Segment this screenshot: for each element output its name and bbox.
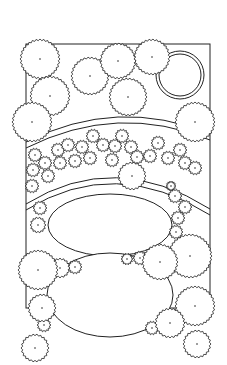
- shrub-symbol: [86, 129, 100, 143]
- tree-symbol: [183, 330, 211, 358]
- planting-plan-diagram: [0, 0, 227, 365]
- tree-symbol: [12, 102, 52, 142]
- shrub-symbol: [68, 154, 82, 168]
- tree-symbol: [21, 334, 49, 362]
- shrub-symbol: [96, 138, 110, 152]
- shrub-symbol: [173, 143, 187, 157]
- tree-symbol: [175, 102, 215, 142]
- shrub-symbol: [151, 136, 165, 150]
- shrub-symbol: [105, 153, 119, 167]
- tree-symbol: [118, 162, 146, 190]
- shrub-symbol: [26, 163, 40, 177]
- tree-symbol: [155, 308, 185, 338]
- tree-symbol: [100, 43, 136, 79]
- shrub-symbol: [30, 217, 46, 233]
- shrub-symbol: [143, 149, 157, 163]
- shrub-symbol: [53, 156, 67, 170]
- tree-symbol: [20, 39, 60, 79]
- tree-symbol: [18, 250, 58, 290]
- tree-symbol: [109, 78, 147, 116]
- shrub-symbol: [33, 201, 47, 215]
- shrub-symbol: [75, 140, 89, 154]
- shrub-symbol: [25, 179, 39, 193]
- shrub-symbol: [161, 151, 175, 165]
- shrub-symbol: [83, 151, 97, 165]
- shrub-symbol: [41, 169, 55, 183]
- shrub-symbol: [166, 181, 176, 191]
